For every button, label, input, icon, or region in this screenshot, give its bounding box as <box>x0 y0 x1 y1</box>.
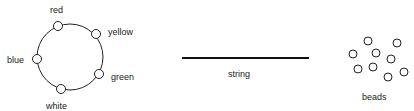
bead-red <box>54 22 63 31</box>
bead <box>364 37 372 45</box>
bead <box>387 55 395 63</box>
label-green: green <box>111 72 134 82</box>
label-white: white <box>45 101 67 111</box>
bead-green <box>95 70 104 79</box>
bead-white <box>57 85 66 94</box>
bead-yellow <box>92 30 101 39</box>
bead <box>372 49 380 57</box>
string-diagram: string <box>182 58 309 79</box>
label-string: string <box>228 69 250 79</box>
bead <box>400 68 408 76</box>
necklace-diagram: red yellow blue green white <box>7 5 134 111</box>
diagram-canvas: red yellow blue green white string beads <box>0 0 414 111</box>
label-yellow: yellow <box>108 27 134 37</box>
loose-beads: beads <box>349 37 408 102</box>
label-beads: beads <box>362 92 387 102</box>
bead <box>354 65 362 73</box>
bead <box>369 63 377 71</box>
bead <box>384 73 392 81</box>
label-blue: blue <box>7 55 24 65</box>
bead-blue <box>33 55 42 64</box>
bead <box>349 50 357 58</box>
bead <box>393 39 401 47</box>
label-red: red <box>50 5 63 15</box>
